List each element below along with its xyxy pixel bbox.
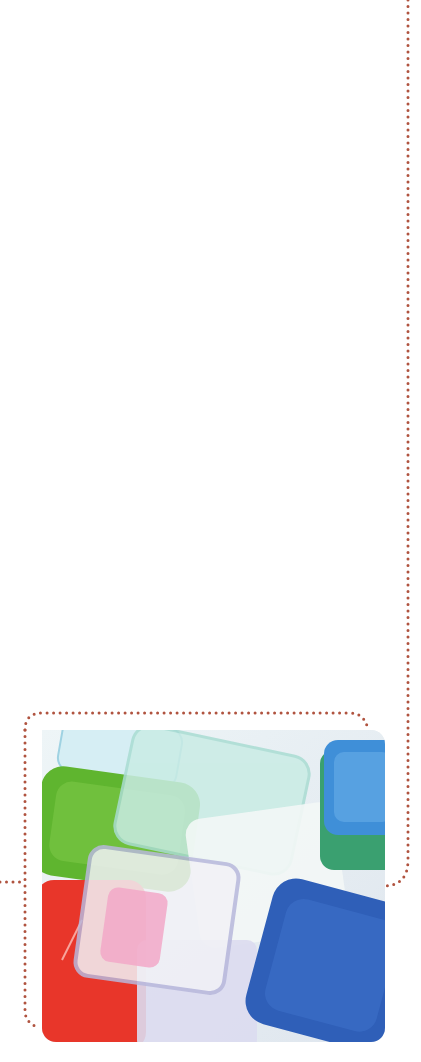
- containers-photo: [42, 730, 385, 1042]
